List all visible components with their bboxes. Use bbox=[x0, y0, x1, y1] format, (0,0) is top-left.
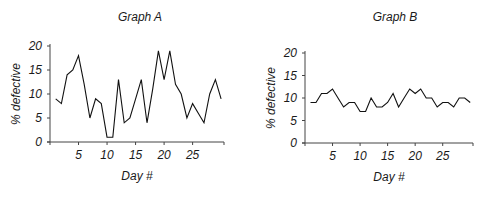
graph-a-y-tick-label: 10 bbox=[29, 87, 43, 101]
graph-a-y-tick-label: 5 bbox=[35, 111, 42, 125]
graph-b-y-tick-label: 10 bbox=[284, 91, 298, 105]
graph-b-data-line bbox=[311, 89, 471, 112]
graph-a-x-tick-label: 10 bbox=[100, 148, 114, 162]
graph-a-y-axis-label: % defective bbox=[9, 63, 23, 125]
graph-b-x-tick-label: 25 bbox=[435, 149, 450, 163]
graph-b-y-tick-label: 5 bbox=[290, 114, 297, 128]
graph-b-panel: Graph B 05101520510152025Day #% defectiv… bbox=[250, 0, 487, 197]
graph-b-y-tick-label: 20 bbox=[283, 46, 298, 60]
graph-a-x-tick-label: 15 bbox=[129, 148, 143, 162]
graph-b-y-axis-label: % defective bbox=[264, 67, 278, 129]
graph-a-plot: 05101520510152025Day #% defective bbox=[0, 0, 245, 197]
graph-a-x-tick-label: 5 bbox=[75, 148, 82, 162]
graph-b-x-axis-label: Day # bbox=[373, 170, 405, 184]
graph-a-x-axis-label: Day # bbox=[121, 169, 153, 183]
graph-a-x-tick-label: 25 bbox=[185, 148, 200, 162]
graph-a-y-tick-label: 0 bbox=[35, 135, 42, 149]
graph-b-y-tick-label: 15 bbox=[284, 69, 298, 83]
graph-b-x-tick-label: 5 bbox=[329, 149, 336, 163]
graph-a-data-line bbox=[56, 51, 221, 137]
graph-b-y-tick-label: 0 bbox=[290, 136, 297, 150]
graph-b-x-tick-label: 20 bbox=[407, 149, 422, 163]
graph-a-panel: Graph A 05101520510152025Day #% defectiv… bbox=[0, 0, 245, 197]
graph-a-x-tick-label: 20 bbox=[156, 148, 171, 162]
graph-a-y-tick-label: 15 bbox=[29, 63, 43, 77]
graph-a-y-tick-label: 20 bbox=[28, 39, 43, 53]
graph-b-x-tick-label: 10 bbox=[353, 149, 367, 163]
graph-b-plot: 05101520510152025Day #% defective bbox=[250, 0, 487, 197]
graph-b-x-tick-label: 15 bbox=[381, 149, 395, 163]
